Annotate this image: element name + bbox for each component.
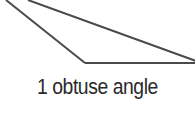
triangle-left-edge [6,0,85,63]
obtuse-triangle-diagram [0,0,195,119]
figure-caption: 1 obtuse angle [12,74,184,100]
triangle-top-edge [28,0,195,61]
